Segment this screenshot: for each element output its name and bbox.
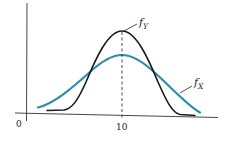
fx-curve bbox=[38, 55, 200, 113]
fy-label: fY bbox=[138, 16, 149, 31]
fy-curve bbox=[47, 31, 195, 116]
fx-label-sub: X bbox=[197, 82, 204, 91]
fx-leader-line bbox=[180, 86, 192, 93]
fx-label: fX bbox=[193, 76, 204, 91]
fy-leader-line bbox=[124, 24, 137, 31]
y-axis bbox=[27, 3, 28, 121]
x-tick-10: 10 bbox=[116, 122, 128, 132]
density-chart: fY fX 0 10 bbox=[0, 0, 225, 141]
fy-label-sub: Y bbox=[143, 22, 149, 31]
origin-label: 0 bbox=[16, 119, 22, 129]
